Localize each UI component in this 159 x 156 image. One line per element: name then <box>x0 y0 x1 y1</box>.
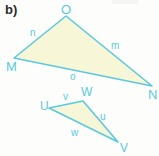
geometry-figure: b) O N M n m o W V U v u w <box>0 0 159 156</box>
side-label-n: n <box>30 28 36 38</box>
side-label-u: u <box>100 112 106 122</box>
side-label-o: o <box>70 72 76 82</box>
part-label: b) <box>5 2 17 17</box>
side-label-v: v <box>63 92 68 102</box>
vertex-label-O: O <box>61 3 71 16</box>
vertex-label-V: V <box>120 142 128 154</box>
vertex-label-W: W <box>81 86 92 98</box>
side-label-w: w <box>71 128 78 138</box>
vertex-label-U: U <box>40 100 49 112</box>
vertex-label-M: M <box>6 60 17 73</box>
side-label-m: m <box>111 41 119 51</box>
vertex-label-N: N <box>148 88 157 101</box>
triangles-canvas <box>0 0 159 156</box>
triangle-UVW-shape <box>49 101 118 142</box>
